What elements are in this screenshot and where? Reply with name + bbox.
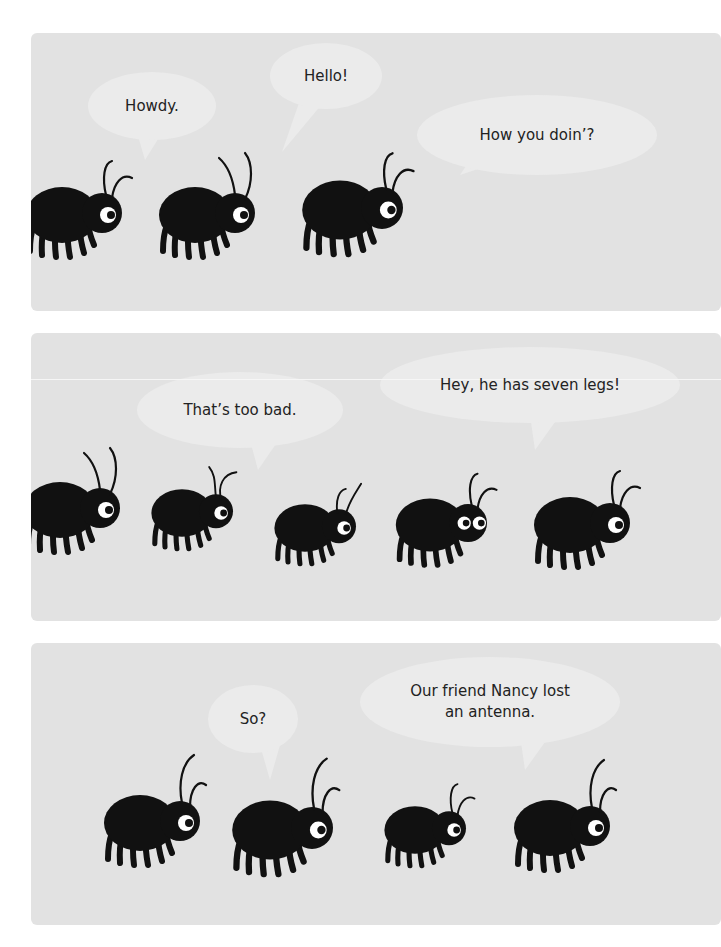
speech-bubble-text: Hey, he has seven legs! bbox=[440, 375, 620, 396]
bug-character bbox=[274, 484, 361, 564]
bug-character bbox=[151, 467, 236, 549]
speech-bubble-text: That’s too bad. bbox=[183, 400, 296, 421]
comic-panel-1: Howdy.Hello!How you doin’? bbox=[31, 33, 721, 311]
speech-bubble-text: Howdy. bbox=[125, 96, 179, 117]
comic-panel-3: So?Our friend Nancy lost an antenna. bbox=[31, 643, 721, 925]
bug-character bbox=[31, 448, 120, 552]
bug-character bbox=[514, 760, 616, 870]
bug-character bbox=[302, 153, 413, 254]
speech-bubble-text: So? bbox=[240, 709, 267, 730]
speech-bubble-text: How you doin’? bbox=[480, 125, 595, 146]
bug-character bbox=[384, 784, 474, 866]
comic-panel-2: That’s too bad.Hey, he has seven legs! bbox=[31, 333, 721, 621]
bug-character bbox=[159, 153, 255, 257]
bug-character bbox=[396, 474, 497, 565]
speech-bubble-text: Our friend Nancy lost an antenna. bbox=[410, 681, 570, 723]
bug-character bbox=[104, 755, 206, 865]
panel-artwork bbox=[31, 33, 721, 311]
bug-character bbox=[534, 471, 640, 567]
speech-bubble-text: Hello! bbox=[304, 66, 348, 87]
panel-artwork bbox=[31, 643, 721, 925]
bug-character bbox=[232, 759, 339, 875]
bug-character bbox=[31, 161, 132, 257]
